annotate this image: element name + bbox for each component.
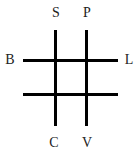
label-top-left: S	[49, 6, 63, 20]
label-left: B	[3, 53, 17, 67]
label-top-right: P	[80, 6, 94, 20]
vertical-line-right	[85, 30, 88, 126]
label-bottom-right: V	[80, 136, 94, 150]
horizontal-line-top	[23, 59, 118, 62]
grid-diagram: S P B L C V	[0, 0, 136, 161]
label-bottom-left: C	[47, 136, 61, 150]
horizontal-line-bottom	[23, 93, 118, 96]
vertical-line-left	[54, 30, 57, 126]
label-right: L	[122, 53, 136, 67]
